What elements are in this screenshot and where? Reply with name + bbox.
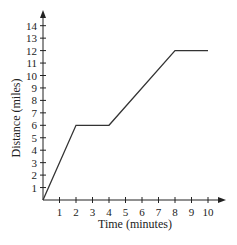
distance-time-chart: 123456789101234567891011121314 Time (min… [0,0,237,245]
y-axis-arrow-icon [40,10,46,18]
y-tick-label: 4 [32,144,38,156]
x-tick-label: 1 [57,206,63,218]
x-tick-label: 10 [203,206,215,218]
x-axis-arrow-icon [218,197,226,203]
x-tick-label: 3 [90,206,96,218]
x-tick-label: 9 [189,206,195,218]
y-tick-label: 1 [32,182,38,194]
x-tick-label: 8 [172,206,178,218]
y-tick-label: 7 [32,107,38,119]
y-tick-label: 5 [32,132,38,144]
y-tick-label: 13 [26,32,38,44]
y-tick-label: 14 [26,20,38,32]
data-series [43,51,208,200]
x-axis-label: Time (minutes) [98,217,172,231]
y-tick-label: 11 [26,57,37,69]
y-tick-label: 2 [32,169,38,181]
y-axis-label: Distance (miles) [9,79,23,158]
x-tick-label: 2 [73,206,79,218]
y-tick-label: 3 [32,157,38,169]
y-tick-label: 12 [26,45,37,57]
y-tick-label: 10 [26,70,38,82]
series-line [43,51,208,200]
y-tick-label: 8 [32,94,38,106]
y-tick-label: 9 [32,82,38,94]
ticks: 123456789101234567891011121314 [26,20,214,218]
axes [40,10,226,203]
y-tick-label: 6 [32,119,38,131]
